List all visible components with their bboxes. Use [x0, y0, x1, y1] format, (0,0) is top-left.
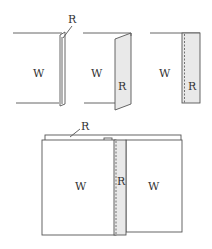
strip-label: R: [188, 80, 197, 93]
step-1: R W: [13, 13, 77, 106]
strip-label: R: [68, 13, 77, 26]
folding-diagram: R W W R W R R W R W: [0, 0, 212, 249]
strip-label: R: [117, 175, 126, 188]
step-3: W R: [150, 33, 200, 103]
strip-label: R: [118, 80, 127, 93]
folded-strip: [115, 33, 131, 110]
right-panel-label: W: [148, 180, 160, 193]
top-strip-label: R: [81, 120, 90, 133]
panel-label: W: [159, 67, 171, 80]
step-4: R W R W: [42, 120, 182, 235]
panel-label: W: [33, 67, 45, 80]
step-2: W R: [83, 33, 131, 110]
panel-label: W: [91, 67, 103, 80]
strip-edge: [60, 32, 65, 106]
left-panel-label: W: [75, 180, 87, 193]
